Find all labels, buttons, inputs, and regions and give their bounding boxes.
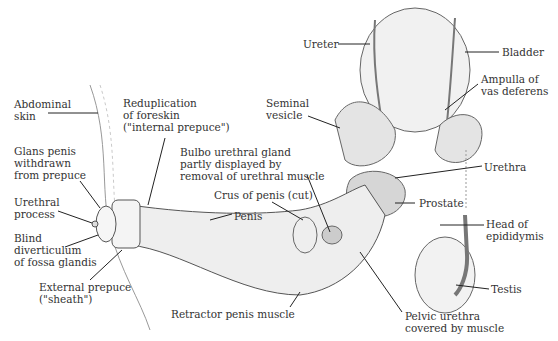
label-blind-diverticulum: Blind diverticulum of fossa glandis: [14, 232, 97, 268]
glans: [96, 206, 116, 242]
label-bulbo-urethral-gland: Bulbo urethral gland partly displayed by…: [180, 146, 324, 182]
label-head-of-epididymis: Head of epididymis: [486, 218, 544, 242]
label-urethra: Urethra: [484, 161, 526, 173]
label-external-prepuce: External prepuce ("sheath"): [39, 281, 131, 305]
label-glans-penis: Glans penis withdrawn from prepuce: [14, 145, 86, 181]
label-reduplication-foreskin: Reduplication of foreskin ("internal pre…: [123, 97, 230, 133]
label-ureter: Ureter: [303, 38, 339, 50]
label-prostate: Prostate: [419, 197, 464, 209]
label-penis: Penis: [234, 210, 262, 222]
label-ampulla-vas-deferens: Ampulla of vas deferens: [481, 73, 548, 97]
label-urethral-process: Urethral process: [14, 196, 60, 220]
label-pelvic-urethra: Pelvic urethra covered by muscle: [405, 310, 504, 334]
label-seminal-vesicle: Seminal vesicle: [266, 97, 309, 121]
label-crus-of-penis: Crus of penis (cut): [214, 189, 313, 201]
label-retractor-penis-muscle: Retractor penis muscle: [171, 308, 295, 320]
label-bladder: Bladder: [502, 46, 544, 58]
label-abdominal-skin: Abdominal skin: [14, 98, 71, 122]
penis-body: [130, 185, 385, 295]
label-testis: Testis: [491, 283, 522, 295]
